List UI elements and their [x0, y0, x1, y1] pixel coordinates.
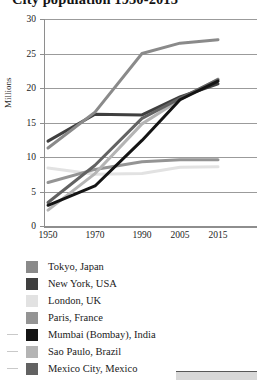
legend-color-swatch	[26, 278, 38, 290]
legend-label: Sao Paulo, Brazil	[48, 346, 121, 357]
legend-item[interactable]: Tokyo, Japan	[0, 258, 257, 275]
legend-label: Paris, France	[48, 312, 103, 323]
legend-label: Tokyo, Japan	[48, 261, 104, 272]
legend-dash-icon	[0, 258, 26, 275]
page-edge-artifact	[176, 372, 257, 380]
page-edge-rule	[176, 371, 257, 372]
legend-item[interactable]: London, UK	[0, 292, 257, 309]
legend-item[interactable]: Paris, France	[0, 309, 257, 326]
plot-area: Millions 051015202530 195019701990200520…	[0, 12, 257, 258]
x-tick-label: 2005	[171, 230, 190, 240]
x-tick-label: 1970	[86, 230, 105, 240]
x-tick-label: 1950	[39, 230, 58, 240]
legend-color-swatch	[26, 363, 38, 375]
legend-color-swatch	[26, 295, 38, 307]
legend-color-swatch	[26, 312, 38, 324]
legend-label: New York, USA	[48, 278, 117, 289]
x-axis-labels: 19501970199020052015	[0, 230, 257, 254]
page-title: City population 1950-2015	[12, 0, 178, 8]
series-line	[48, 167, 218, 175]
legend-label: London, UK	[48, 295, 101, 306]
x-tick-label: 2015	[209, 230, 228, 240]
legend-dash-icon	[0, 360, 26, 377]
legend-item[interactable]: Sao Paulo, Brazil	[0, 343, 257, 360]
legend-color-swatch	[26, 346, 38, 358]
legend-label: Mumbai (Bombay), India	[48, 329, 156, 340]
series-line	[48, 81, 218, 205]
legend-dash-icon	[0, 326, 26, 343]
legend-color-swatch	[26, 329, 38, 341]
series-line	[48, 79, 218, 210]
legend-dash-icon	[0, 309, 26, 326]
legend-item[interactable]: Mumbai (Bombay), India	[0, 326, 257, 343]
x-tick-label: 1990	[133, 230, 152, 240]
legend-label: Mexico City, Mexico	[48, 363, 137, 374]
series-line	[48, 80, 218, 203]
data-lines	[0, 12, 257, 258]
legend-dash-icon	[0, 292, 26, 309]
legend-dash-icon	[0, 275, 26, 292]
legend-item[interactable]: New York, USA	[0, 275, 257, 292]
legend-color-swatch	[26, 261, 38, 273]
legend: Tokyo, JapanNew York, USALondon, UKParis…	[0, 258, 257, 378]
legend-dash-icon	[0, 343, 26, 360]
